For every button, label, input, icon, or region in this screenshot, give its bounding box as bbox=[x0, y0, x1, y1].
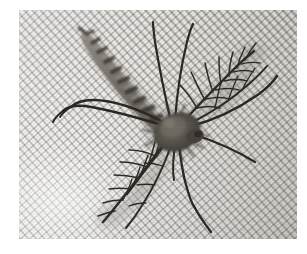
figure-root bbox=[0, 0, 307, 254]
photo-vignette bbox=[19, 10, 297, 239]
photograph-plate bbox=[19, 10, 297, 239]
